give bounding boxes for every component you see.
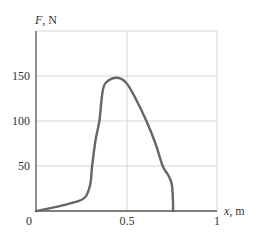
x-axis-label: x, m [223, 204, 245, 218]
x-tick-0.5: 0.5 [120, 214, 135, 228]
x-tick-1: 1 [214, 214, 220, 228]
chart: 150 100 50 0 0.5 1 F, N x, m [0, 0, 258, 238]
y-tick-50: 50 [18, 159, 30, 173]
force-curve [36, 78, 173, 211]
y-tick-150: 150 [12, 69, 30, 83]
x-tick-0: 0 [26, 214, 32, 228]
y-tick-100: 100 [12, 114, 30, 128]
grid [36, 31, 217, 211]
y-axis-label: F, N [34, 13, 57, 27]
